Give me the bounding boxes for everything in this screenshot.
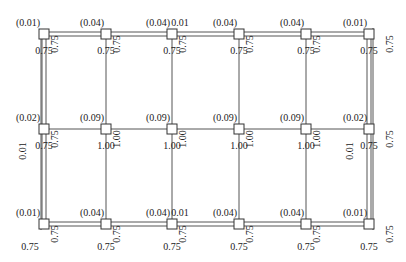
column-node [301, 124, 311, 134]
node-above-label: (0.04) [146, 207, 170, 219]
node-side-label: 0.75 [49, 130, 60, 148]
column-node [101, 124, 111, 134]
column-node [301, 29, 311, 39]
node-above-label: (0.04) [213, 17, 237, 29]
node-above-label: (0.04) [213, 207, 237, 219]
node-below-label: 0.75 [360, 45, 378, 56]
node-side-label: 0.75 [311, 225, 322, 243]
column-node [301, 219, 311, 229]
node-above-label: (0.04) [280, 207, 304, 219]
node-above-label: (0.02) [343, 112, 367, 124]
node-above-label: (0.04) [280, 17, 304, 29]
node-side-label: 1.00 [177, 130, 188, 148]
node-side-label: 0.75 [49, 225, 60, 243]
structural-grid-diagram: (0.01)0.750.75(0.04)0.750.75(0.04)0.010.… [0, 0, 406, 262]
node-left-vertical-label: 0.01 [344, 142, 355, 160]
column-node [39, 124, 49, 134]
value-labels: (0.01)0.750.75(0.04)0.750.75(0.04)0.010.… [16, 17, 395, 252]
node-extra-label: 0.01 [171, 17, 189, 28]
column-node [364, 219, 374, 229]
node-below-label: 0.75 [21, 241, 39, 252]
column-node [101, 219, 111, 229]
node-above-label: (0.02) [16, 112, 40, 124]
column-node [167, 124, 177, 134]
node-above-label: (0.01) [343, 207, 367, 219]
column-node [167, 219, 177, 229]
column-node [39, 29, 49, 39]
node-side-label: 0.75 [244, 225, 255, 243]
node-above-label: (0.09) [280, 112, 304, 124]
node-above-label: (0.01) [16, 17, 40, 29]
node-extra-label: 0.01 [171, 207, 189, 218]
node-above-label: (0.04) [146, 17, 170, 29]
node-side-label: 1.00 [244, 130, 255, 148]
node-side-label: 0.75 [177, 35, 188, 53]
column-node [364, 29, 374, 39]
node-above-label: (0.04) [80, 207, 104, 219]
column-node [234, 219, 244, 229]
node-side-label: 0.75 [244, 35, 255, 53]
beam-lines [41, 28, 373, 230]
node-side-label: 0.75 [384, 225, 395, 243]
node-below-label: 0.75 [360, 140, 378, 151]
node-side-label: 0.75 [49, 35, 60, 53]
column-node [364, 124, 374, 134]
column-node [234, 29, 244, 39]
node-side-label: 1.00 [111, 130, 122, 148]
node-side-label: 0.75 [311, 35, 322, 53]
column-node [101, 29, 111, 39]
node-side-label: 0.75 [111, 35, 122, 53]
node-above-label: (0.01) [16, 207, 40, 219]
column-node [167, 29, 177, 39]
node-above-label: (0.09) [213, 112, 237, 124]
node-below-label: 0.75 [360, 241, 378, 252]
node-side-label: 0.75 [177, 225, 188, 243]
node-side-label: 0.75 [384, 130, 395, 148]
node-above-label: (0.04) [80, 17, 104, 29]
node-side-label: 1.00 [311, 130, 322, 148]
node-above-label: (0.09) [80, 112, 104, 124]
node-above-label: (0.01) [343, 17, 367, 29]
node-side-label: 0.75 [111, 225, 122, 243]
node-above-label: (0.09) [146, 112, 170, 124]
node-left-vertical-label: 0.01 [17, 142, 28, 160]
node-side-label: 0.75 [384, 35, 395, 53]
column-node [39, 219, 49, 229]
column-node [234, 124, 244, 134]
